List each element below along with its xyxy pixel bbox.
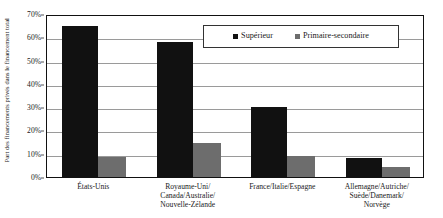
x-axis-category-label: France/Italie/Espagne	[235, 182, 330, 191]
y-tick-label: 30%	[27, 104, 41, 112]
y-tick-label: 50%	[27, 58, 41, 66]
x-axis-category-label: États-Unis	[46, 182, 141, 191]
y-tick-mark	[41, 131, 44, 132]
y-tick-mark	[41, 108, 44, 109]
bar	[157, 42, 193, 177]
y-tick-label: 10%	[27, 151, 41, 159]
bar	[287, 156, 315, 177]
bar	[98, 157, 126, 177]
x-axis-category-labels: États-UnisRoyaume-Uni/ Canada/Australie/…	[46, 182, 424, 218]
legend-swatch-primaire-secondaire	[295, 34, 300, 39]
x-axis-category-label: Allemagne/Autriche/ Suède/Danemark/ Norv…	[330, 182, 425, 210]
y-axis-title-text: Part des financements privés dans le fin…	[4, 18, 10, 162]
legend-item-primaire-secondaire: Primaire-secondaire	[295, 32, 369, 40]
bar	[346, 158, 382, 177]
y-tick-label: 60%	[27, 34, 41, 42]
y-axis-title: Part des financements privés dans le fin…	[0, 0, 14, 180]
legend-item-superieur: Supérieur	[233, 32, 273, 40]
y-tick-mark	[41, 61, 44, 62]
legend-swatch-superieur	[233, 34, 238, 39]
bar	[193, 143, 221, 177]
legend-label-superieur: Supérieur	[241, 32, 273, 40]
legend-label-primaire-secondaire: Primaire-secondaire	[303, 32, 369, 40]
y-tick-label: 0%	[31, 174, 41, 182]
y-tick-label: 70%	[27, 11, 41, 19]
y-tick-mark	[41, 15, 44, 16]
bar	[382, 167, 410, 177]
bar	[251, 107, 287, 177]
y-tick-label: 20%	[27, 128, 41, 136]
y-tick-mark	[41, 38, 44, 39]
x-axis-category-label: Royaume-Uni/ Canada/Australie/ Nouvelle-…	[141, 182, 236, 210]
y-tick-mark	[41, 178, 44, 179]
chart-legend: Supérieur Primaire-secondaire	[203, 25, 399, 48]
y-tick-label: 40%	[27, 81, 41, 89]
y-tick-mark	[41, 84, 44, 85]
chart-figure: Part des financements privés dans le fin…	[0, 0, 443, 218]
y-tick-mark	[41, 154, 44, 155]
y-axis-tick-labels: 0%10%20%30%40%50%60%70%	[14, 0, 44, 218]
bar	[62, 26, 98, 177]
